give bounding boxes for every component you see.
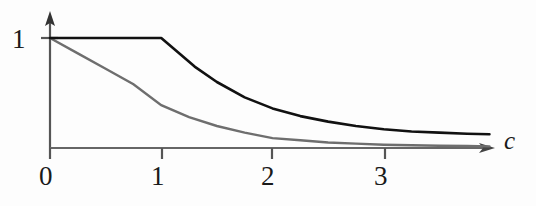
x-axis-ticks <box>50 148 385 159</box>
x-axis-tick-label-0: 0 <box>39 163 53 190</box>
x-axis-tick-label-2: 2 <box>261 163 275 190</box>
lower-curve-path <box>50 38 489 146</box>
y-axis-tick-label-1: 1 <box>12 26 26 53</box>
x-axis-tick-label-1: 1 <box>151 163 165 190</box>
y-axis <box>45 11 55 148</box>
upper-curve-path <box>50 38 489 134</box>
x-axis-tick-label-3: 3 <box>374 163 388 190</box>
figure-canvas: 1 0 1 2 3 c <box>0 0 536 206</box>
x-axis-title: c <box>504 128 515 153</box>
